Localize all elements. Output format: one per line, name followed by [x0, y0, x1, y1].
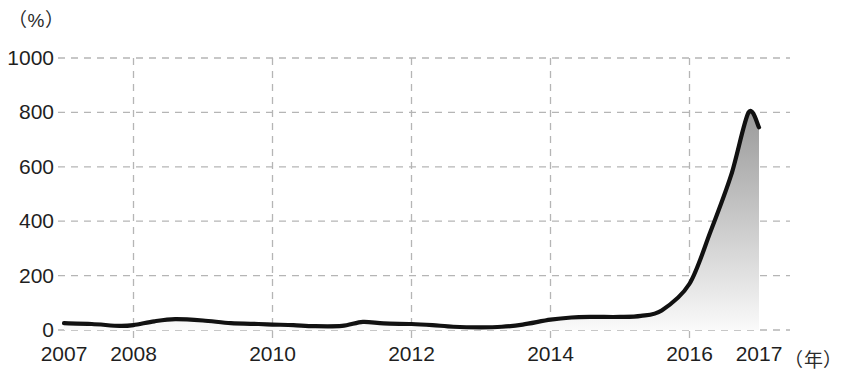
horizontal-gridlines [58, 58, 790, 330]
y-tick-label: 400 [0, 210, 54, 231]
x-tick-label: 2008 [110, 343, 157, 364]
x-tick-label: 2007 [41, 343, 88, 364]
x-tick-label: 2010 [249, 343, 296, 364]
y-tick-label: 800 [0, 101, 54, 122]
y-tick-label: 0 [0, 319, 54, 340]
y-tick-label: 600 [0, 156, 54, 177]
x-tick-label: 2012 [388, 343, 435, 364]
vertical-gridlines [134, 58, 690, 338]
x-tick-label: 2017 [736, 343, 783, 364]
y-tick-label: 200 [0, 265, 54, 286]
chart-plot-area [0, 0, 854, 379]
y-tick-label: 1000 [0, 47, 54, 68]
x-tick-label: 2016 [666, 343, 713, 364]
chart-container: （%） （年） 02004006008001000 20072008201020… [0, 0, 854, 379]
x-tick-label: 2014 [527, 343, 574, 364]
